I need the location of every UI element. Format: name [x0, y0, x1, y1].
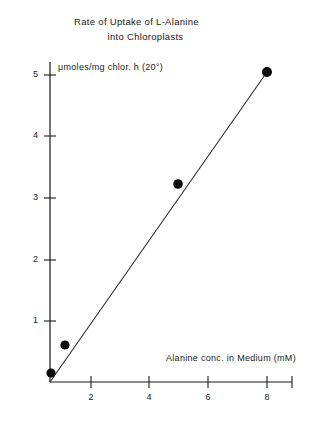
- data-point: [262, 67, 272, 77]
- chart-title-line-1: Rate of Uptake of L-Alanine: [0, 14, 315, 29]
- chart-title-line-2: into Chloroplasts: [0, 29, 315, 44]
- y-tick-label-3: 3: [22, 192, 38, 202]
- y-tick-label-1: 1: [22, 315, 38, 325]
- y-tick-label-5: 5: [22, 69, 38, 79]
- x-axis-label: Alanine conc. in Medium (mM): [166, 353, 296, 363]
- x-tick-label-2: 2: [83, 392, 99, 402]
- x-tick-label-8: 8: [259, 392, 275, 402]
- fit-line: [50, 72, 267, 382]
- figure-panel: Rate of Uptake of L-Alanine into Chlorop…: [0, 0, 315, 424]
- data-point: [46, 368, 55, 377]
- data-point: [173, 179, 183, 189]
- y-tick-label-2: 2: [22, 254, 38, 264]
- x-tick-label-4: 4: [141, 392, 157, 402]
- data-point: [60, 340, 69, 349]
- y-axis-label: μmoles/mg chlor. h (20°): [58, 62, 163, 72]
- chart-title: Rate of Uptake of L-Alanine into Chlorop…: [0, 14, 315, 44]
- y-tick-label-4: 4: [22, 130, 38, 140]
- x-tick-label-6: 6: [200, 392, 216, 402]
